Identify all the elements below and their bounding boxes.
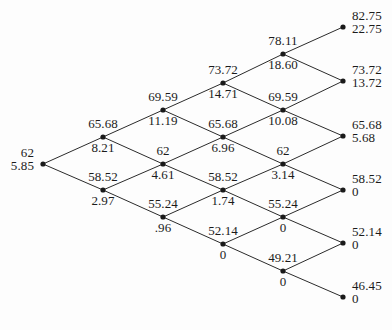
node-option-value: 0 [220,248,227,261]
lattice-node-dot[interactable] [100,134,105,139]
node-asset-value: 52.14 [208,224,238,237]
node-option-value: 0 [352,292,382,305]
lattice-node-dot[interactable] [280,214,285,219]
lattice-node-dot[interactable] [280,268,285,273]
edge-layer [43,27,343,297]
lattice-node-dot[interactable] [280,51,285,56]
node-asset-value: 65.68 [352,118,382,131]
node-value-pair: 82.7522.75 [352,9,382,36]
node-asset-value: 62 [11,146,34,159]
node-asset-value: 49.21 [268,251,298,264]
node-option-value: 0 [280,275,287,288]
node-asset-value: 55.24 [148,197,178,210]
node-asset-value: 69.59 [148,90,178,103]
lattice-node-dot[interactable] [160,161,165,166]
node-asset-value: 52.14 [352,225,382,238]
node-value-pair: 58.520 [352,172,382,199]
lattice-node-dot[interactable] [340,24,345,29]
node-asset-value: 58.52 [208,170,238,183]
node-asset-value: 62 [276,144,289,157]
node-option-value: 3.14 [271,168,294,181]
lattice-node-dot[interactable] [340,133,345,138]
node-value-pair: 65.685.68 [352,118,382,145]
lattice-node-dot[interactable] [220,80,225,85]
node-option-value: 10.08 [268,114,298,127]
lattice-edge [283,271,343,297]
lattice-node-dot[interactable] [100,187,105,192]
lattice-node-dot[interactable] [280,107,285,112]
node-option-value: 1.74 [211,194,234,207]
node-option-value: 0 [352,238,382,251]
lattice-node-dot[interactable] [160,214,165,219]
lattice-node-dot[interactable] [220,134,225,139]
node-asset-value: 62 [156,144,169,157]
node-asset-value: 65.68 [208,117,238,130]
lattice-node-dot[interactable] [340,294,345,299]
node-value-pair: 73.7213.72 [352,63,382,90]
node-asset-value: 82.75 [352,9,382,22]
node-option-value: 6.96 [211,141,234,154]
node-option-value: 18.60 [268,58,298,71]
lattice-node-dot[interactable] [220,187,225,192]
node-option-value: 22.75 [352,22,382,35]
lattice-node-dot[interactable] [220,241,225,246]
lattice-edge [283,217,343,243]
node-option-value: 8.21 [91,141,114,154]
node-layer [40,24,345,299]
node-asset-value: 58.52 [352,172,382,185]
node-option-value: 4.61 [151,168,174,181]
node-option-value: 5.85 [11,159,34,172]
node-asset-value: 73.72 [208,63,238,76]
node-option-value: .96 [155,221,172,234]
node-value-pair: 46.450 [352,279,382,306]
node-asset-value: 46.45 [352,279,382,292]
lattice-canvas [0,0,392,330]
node-option-value: 13.72 [352,76,382,89]
lattice-node-dot[interactable] [40,161,45,166]
node-asset-value: 78.11 [268,34,297,47]
node-asset-value: 65.68 [88,117,118,130]
lattice-node-dot[interactable] [280,161,285,166]
node-option-value: 14.71 [208,87,238,100]
node-option-value: 2.97 [91,194,114,207]
node-asset-value: 58.52 [88,170,118,183]
lattice-node-dot[interactable] [340,240,345,245]
lattice-edge [283,136,343,164]
node-option-value: 0 [280,221,287,234]
node-value-pair: 52.140 [352,225,382,252]
node-asset-value: 69.59 [268,90,298,103]
node-value-pair: 625.85 [11,146,34,173]
lattice-node-dot[interactable] [340,78,345,83]
lattice-node-dot[interactable] [160,107,165,112]
node-option-value: 5.68 [352,131,382,144]
node-asset-value: 55.24 [268,197,298,210]
lattice-node-dot[interactable] [340,187,345,192]
node-option-value: 11.19 [148,114,177,127]
node-option-value: 0 [352,185,382,198]
node-asset-value: 73.72 [352,63,382,76]
